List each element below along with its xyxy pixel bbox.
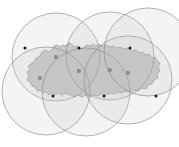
facility-marker-f4 [127, 72, 130, 75]
coverage-map-svg [0, 0, 179, 147]
coverage-map-figure [0, 0, 179, 147]
coverage-circles-layer [2, 8, 179, 136]
facility-marker-f5 [39, 77, 42, 80]
demand-point-d6 [155, 95, 158, 98]
facility-marker-f1 [55, 56, 58, 59]
demand-point-d4 [52, 95, 55, 98]
demand-point-d5 [103, 95, 106, 98]
demand-point-d1 [24, 47, 27, 50]
facility-marker-f3 [109, 69, 112, 72]
facility-marker-f2 [78, 70, 81, 73]
demand-point-d3 [129, 47, 132, 50]
demand-point-d2 [78, 47, 81, 50]
